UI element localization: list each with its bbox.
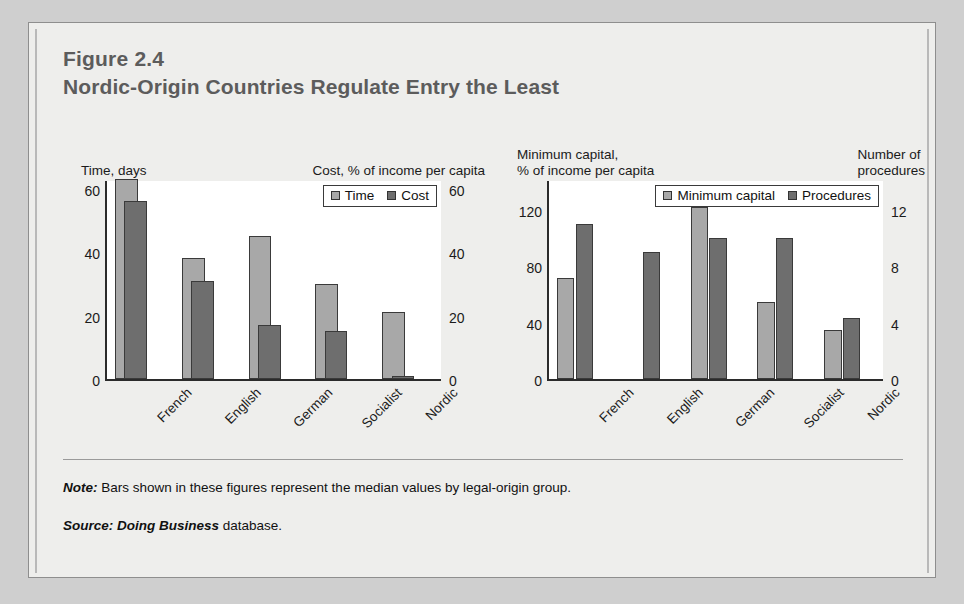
left-axis-tick-60: 60: [84, 183, 100, 199]
plot-area-wrapper-left: Time Cost 02040600204060 FrenchEnglishGe…: [53, 181, 493, 381]
bar-group: [683, 181, 750, 379]
card-rule-left: [35, 29, 37, 573]
legend-swatch-icon-time: [331, 191, 340, 200]
bar-group: [749, 181, 816, 379]
left-axis-tick-40: 40: [84, 246, 100, 262]
right-axis-tick-60: 60: [449, 183, 465, 199]
bar-collection-left: [107, 181, 441, 379]
legend-label-time: Time: [345, 188, 375, 203]
bar-procedures: [776, 238, 793, 379]
bar-time: [382, 312, 405, 379]
legend-label-cost: Cost: [401, 188, 429, 203]
legend-item-time: Time: [331, 188, 375, 203]
right-axis-tick-20: 20: [449, 310, 465, 326]
legend-left: Time Cost: [323, 185, 437, 207]
bar-group: [549, 181, 616, 379]
figure-title: Nordic-Origin Countries Regulate Entry t…: [63, 73, 883, 101]
note-text: Bars shown in these figures represent th…: [98, 480, 572, 495]
legend-right: Minimum capital Procedures: [655, 185, 879, 207]
bar-procedures: [709, 238, 726, 379]
left-axis-title-2: Minimum capital, % of income per capita: [517, 147, 654, 179]
left-axis-tick-40: 40: [526, 317, 542, 333]
right-axis-tick-12: 12: [891, 204, 907, 220]
bar-group: [374, 181, 441, 379]
bar-group: [174, 181, 241, 379]
legend-swatch-icon-cost: [387, 191, 396, 200]
plot-area-right: Minimum capital Procedures 0408012004812: [547, 181, 883, 381]
category-label-nordic: Nordic: [864, 385, 902, 423]
plot-area-wrapper-right: Minimum capital Procedures 0408012004812…: [495, 181, 935, 381]
legend-swatch-icon-procedures: [788, 191, 797, 200]
bar-minimum-capital: [691, 207, 708, 379]
right-axis-tick-4: 4: [891, 317, 899, 333]
axis-titles-right-chart: Minimum capital, % of income per capita …: [495, 135, 935, 181]
bar-cost: [258, 325, 281, 379]
bar-group: [107, 181, 174, 379]
footer-divider: [63, 459, 903, 460]
legend-item-procedures: Procedures: [788, 188, 871, 203]
left-axis-tick-80: 80: [526, 260, 542, 276]
category-label-socialist: Socialist: [800, 385, 846, 431]
category-label-english: English: [664, 385, 706, 427]
category-labels-left: FrenchEnglishGermanSocialistNordic: [105, 385, 441, 449]
bar-procedures: [576, 224, 593, 379]
source-text: database.: [219, 518, 282, 533]
left-axis-tick-0: 0: [92, 373, 100, 389]
bar-procedures: [843, 318, 860, 379]
chart-panel-capital-procedures: Minimum capital, % of income per capita …: [495, 135, 935, 381]
category-label-german: German: [291, 385, 336, 430]
bar-group: [616, 181, 683, 379]
source-label: Source:: [63, 518, 113, 533]
axis-titles-left-chart: Time, days Cost, % of income per capita: [53, 135, 493, 181]
title-block: Figure 2.4 Nordic-Origin Countries Regul…: [63, 45, 883, 101]
right-axis-title: Cost, % of income per capita: [312, 163, 485, 179]
right-axis-title-2: Number of procedures: [857, 147, 925, 179]
left-axis-tick-20: 20: [84, 310, 100, 326]
left-axis-title: Time, days: [81, 163, 147, 179]
bar-minimum-capital: [557, 278, 574, 379]
legend-swatch-icon-minimum-capital: [663, 191, 672, 200]
source-emphasis: Doing Business: [113, 518, 219, 533]
bar-minimum-capital: [824, 330, 841, 379]
figure-number: Figure 2.4: [63, 45, 883, 73]
plot-area-left: Time Cost 02040600204060: [105, 181, 441, 381]
bar-group: [307, 181, 374, 379]
note-label: Note:: [63, 480, 98, 495]
bar-cost: [392, 376, 415, 379]
right-axis-tick-8: 8: [891, 260, 899, 276]
bar-cost: [124, 201, 147, 379]
chart-panel-time-cost: Time, days Cost, % of income per capita …: [53, 135, 493, 381]
category-label-english: English: [222, 385, 264, 427]
category-labels-right: FrenchEnglishGermanSocialistNordic: [547, 385, 883, 449]
category-label-french: French: [596, 385, 636, 425]
bar-collection-right: [549, 181, 883, 379]
left-axis-tick-120: 120: [519, 204, 542, 220]
legend-label-minimum-capital: Minimum capital: [677, 188, 775, 203]
category-label-french: French: [154, 385, 194, 425]
bar-group: [241, 181, 308, 379]
bar-procedures: [643, 252, 660, 379]
category-label-german: German: [733, 385, 778, 430]
category-label-nordic: Nordic: [422, 385, 460, 423]
bar-group: [816, 181, 883, 379]
legend-item-minimum-capital: Minimum capital: [663, 188, 775, 203]
left-axis-tick-0: 0: [534, 373, 542, 389]
figure-card: Figure 2.4 Nordic-Origin Countries Regul…: [28, 22, 936, 578]
legend-item-cost: Cost: [387, 188, 429, 203]
right-axis-tick-40: 40: [449, 246, 465, 262]
category-label-socialist: Socialist: [358, 385, 404, 431]
bar-minimum-capital: [757, 302, 774, 379]
legend-label-procedures: Procedures: [802, 188, 871, 203]
bar-cost: [191, 281, 214, 379]
figure-note: Note: Bars shown in these figures repres…: [63, 479, 913, 497]
figure-source: Source: Doing Business database.: [63, 517, 913, 535]
bar-cost: [325, 331, 348, 379]
